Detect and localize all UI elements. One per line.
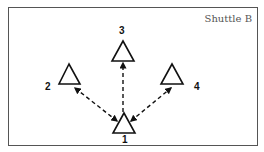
- cone-label-1: 1: [122, 134, 128, 145]
- cone-label-3: 3: [119, 25, 125, 36]
- cone-label-2: 2: [45, 81, 51, 92]
- cone-4-icon: [161, 64, 183, 84]
- shuttle-diagram: [0, 0, 264, 152]
- cone-3-icon: [112, 41, 134, 61]
- arrow-1-to-4: [131, 88, 171, 121]
- arrow-1-to-2: [75, 88, 117, 121]
- cone-2-icon: [59, 64, 80, 84]
- cone-1-icon: [113, 113, 135, 133]
- cone-label-4: 4: [194, 81, 200, 92]
